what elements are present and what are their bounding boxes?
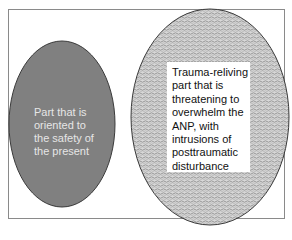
right-part-label: Trauma-reliving part that is threatening… — [172, 66, 250, 173]
right-part-text-box: Trauma-reliving part that is threatening… — [167, 62, 250, 172]
left-part-label: Part that is oriented to the safety of t… — [34, 106, 104, 158]
